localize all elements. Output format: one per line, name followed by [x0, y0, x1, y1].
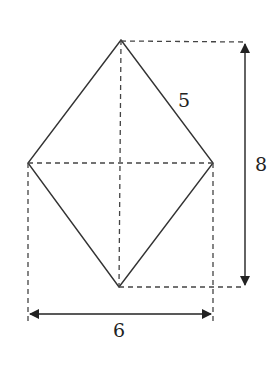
width-label: 6 — [113, 321, 125, 340]
diagram-canvas: 5 8 6 — [0, 0, 277, 368]
top-extension-line — [121, 41, 245, 42]
side-length-label: 5 — [178, 91, 190, 110]
height-label: 8 — [255, 155, 267, 174]
rhombus-diagram — [0, 0, 277, 368]
